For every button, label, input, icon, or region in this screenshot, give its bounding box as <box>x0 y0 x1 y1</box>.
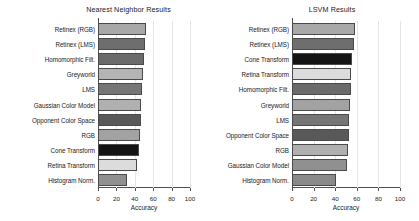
x-axis-line-left <box>98 187 191 188</box>
x-tick <box>153 188 154 191</box>
bar-row: Retina Transform <box>98 159 190 171</box>
bar-row: Retinex (LMS) <box>98 38 190 50</box>
x-tick <box>357 188 358 191</box>
bar-row: Retinex (LMS) <box>292 38 400 50</box>
x-axis-label-left: Accuracy <box>131 204 157 211</box>
figure: Nearest Neighbor Results 020406080100 Re… <box>0 0 419 221</box>
x-tick-label: 80 <box>168 195 175 202</box>
chart-panel-lsvm: LSVM Results 020406080100 Retinex (RGB)R… <box>209 0 419 221</box>
x-axis-label-right: Accuracy <box>333 204 359 211</box>
bar <box>292 174 336 186</box>
bar-category-label: Opponent Color Space <box>226 131 289 138</box>
bar-row: Cone Transform <box>98 144 190 156</box>
bar <box>98 83 142 95</box>
bar <box>98 144 139 156</box>
x-tick-label: 80 <box>375 195 382 202</box>
bar-row: Retinex (RGB) <box>292 23 400 35</box>
bar <box>292 83 351 95</box>
bar <box>98 68 143 80</box>
bar-row: Opponent Color Space <box>292 129 400 141</box>
bar-category-label: Gaussian Color Model <box>228 162 289 169</box>
bar <box>98 53 144 65</box>
x-tick-label: 40 <box>131 195 138 202</box>
bar-row: Greyworld <box>98 68 190 80</box>
x-tick-label: 100 <box>395 195 405 202</box>
bar <box>292 159 347 171</box>
bar-row: Cone Transform <box>292 53 400 65</box>
x-tick-label: 60 <box>150 195 157 202</box>
bar <box>292 129 349 141</box>
bar-category-label: Histogram Norm. <box>48 177 95 184</box>
chart-title-left: Nearest Neighbor Results <box>0 5 209 14</box>
bar-row: RGB <box>98 129 190 141</box>
bar <box>292 23 355 35</box>
bar <box>98 129 140 141</box>
x-axis-line-right <box>292 187 401 188</box>
bar-row: RGB <box>292 144 400 156</box>
bar-row: LMS <box>98 83 190 95</box>
bar-row: Gaussian Color Model <box>292 159 400 171</box>
x-tick-label: 20 <box>113 195 120 202</box>
bar-category-label: LMS <box>276 116 289 123</box>
bar-category-label: LMS <box>82 86 95 93</box>
bar-row: LMS <box>292 114 400 126</box>
bar-category-label: Retinex (LMS) <box>249 40 289 47</box>
grid-line <box>400 21 401 188</box>
bar-category-label: RGB <box>276 147 290 154</box>
bar-category-label: Homomorphic Filt. <box>45 55 95 62</box>
bar-row: Retinex (RGB) <box>98 23 190 35</box>
bar <box>292 38 354 50</box>
x-tick <box>98 188 99 191</box>
bar-category-label: Retina Transform <box>242 71 290 78</box>
bar-row: Opponent Color Space <box>98 114 190 126</box>
grid-line <box>190 21 191 188</box>
bar <box>98 38 145 50</box>
bar-category-label: Retinex (RGB) <box>55 25 95 32</box>
chart-panel-nearest-neighbor: Nearest Neighbor Results 020406080100 Re… <box>0 0 209 221</box>
bar-category-label: Cone Transform <box>245 55 289 62</box>
bar-category-label: Histogram Norm. <box>242 177 289 184</box>
x-tick-label: 20 <box>310 195 317 202</box>
bar-row: Homomorphic Filt. <box>98 53 190 65</box>
bar <box>98 114 141 126</box>
bar-category-label: Greyworld <box>67 71 95 78</box>
bar <box>98 99 141 111</box>
bar-row: Histogram Norm. <box>292 174 400 186</box>
bar-category-label: Homomorphic Filt. <box>239 86 289 93</box>
bar <box>292 53 352 65</box>
bar-category-label: Retinex (LMS) <box>55 40 95 47</box>
x-tick <box>314 188 315 191</box>
bar <box>292 144 348 156</box>
bar <box>292 99 350 111</box>
plot-area-left: 020406080100 Retinex (RGB)Retinex (LMS)H… <box>98 21 190 188</box>
bar <box>292 68 351 80</box>
bar <box>98 159 137 171</box>
x-tick-label: 0 <box>290 195 293 202</box>
x-tick-label: 100 <box>185 195 195 202</box>
bar-row: Histogram Norm. <box>98 174 190 186</box>
x-tick <box>135 188 136 191</box>
x-tick-label: 0 <box>96 195 99 202</box>
plot-area-right: 020406080100 Retinex (RGB)Retinex (LMS)C… <box>292 21 400 188</box>
x-tick <box>378 188 379 191</box>
bar-category-label: Cone Transform <box>51 147 95 154</box>
bar-category-label: RGB <box>82 131 96 138</box>
x-tick <box>116 188 117 191</box>
x-tick <box>400 188 401 191</box>
bar <box>98 23 146 35</box>
bar-category-label: Retinex (RGB) <box>249 25 289 32</box>
x-tick-label: 60 <box>353 195 360 202</box>
x-tick <box>190 188 191 191</box>
chart-title-right: LSVM Results <box>209 5 419 14</box>
bar <box>98 174 127 186</box>
bar-row: Gaussian Color Model <box>98 99 190 111</box>
bar-row: Homomorphic Filt. <box>292 83 400 95</box>
bar-row: Greyworld <box>292 99 400 111</box>
x-tick <box>292 188 293 191</box>
x-tick <box>172 188 173 191</box>
x-tick <box>335 188 336 191</box>
bar-row: Retina Transform <box>292 68 400 80</box>
bar-category-label: Greyworld <box>261 101 289 108</box>
bar-category-label: Retina Transform <box>48 162 96 169</box>
bar <box>292 114 349 126</box>
